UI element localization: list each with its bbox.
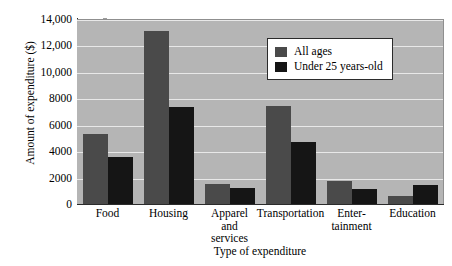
x-tick-label: Food (96, 207, 120, 220)
bar (413, 185, 438, 205)
legend-item: Under 25 years-old (275, 59, 383, 74)
x-tick-label-line: Apparel (211, 207, 248, 220)
x-tick-label: Transportation (257, 207, 324, 220)
x-tick-label: Education (389, 207, 436, 220)
x-axis-line (77, 204, 444, 205)
bar-chart: Amount of expenditure ($) 02000400060008… (0, 0, 452, 266)
x-tick-label-line: tainment (331, 220, 371, 233)
y-tick-label: 4000 (30, 145, 72, 157)
bar (144, 31, 169, 205)
chart-legend: All agesUnder 25 years-old (267, 38, 393, 80)
y-tick-label: 10,000 (30, 66, 72, 78)
bar (291, 142, 316, 205)
y-axis-tick-labels: 0200040006000800010,00012,00014,000 (30, 19, 72, 204)
legend-label: Under 25 years-old (294, 59, 383, 74)
bar (327, 181, 352, 205)
legend-swatch-icon (275, 62, 287, 72)
y-tick-label: 14,000 (30, 13, 72, 25)
x-tick-label: Apparelandservices (211, 207, 248, 245)
y-tick-label: 8000 (30, 92, 72, 104)
x-tick-label: Enter-tainment (331, 207, 371, 232)
x-tick-label-line: Education (389, 207, 436, 220)
bar (352, 189, 377, 205)
legend-item: All ages (275, 44, 383, 59)
bar (230, 188, 255, 205)
y-tick-label: 12,000 (30, 39, 72, 51)
x-tick-label-line: Transportation (257, 207, 324, 220)
x-tick-label-line: services (211, 232, 248, 245)
bar (205, 184, 230, 205)
legend-label: All ages (294, 44, 332, 59)
x-tick-label-line: Enter- (331, 207, 371, 220)
bar (83, 134, 108, 205)
x-tick-label-line: Housing (149, 207, 188, 220)
bar (169, 107, 194, 205)
x-tick-label: Housing (149, 207, 188, 220)
bar (108, 157, 133, 205)
y-tick-label: 6000 (30, 119, 72, 131)
x-tick-label-line: Food (96, 207, 120, 220)
y-tick-label: 2000 (30, 172, 72, 184)
bar (266, 106, 291, 205)
x-axis-title: Type of expenditure (77, 245, 443, 257)
y-tick-label: 0 (30, 198, 72, 210)
legend-swatch-icon (275, 47, 287, 57)
x-tick-label-line: and (211, 220, 248, 233)
